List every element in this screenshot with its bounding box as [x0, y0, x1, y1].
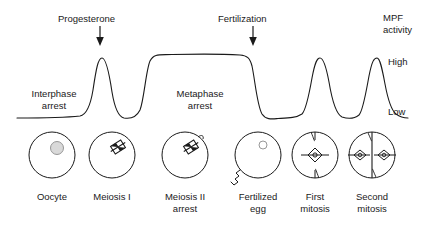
cell-label-fertilized-egg-line1: Fertilized	[239, 191, 278, 202]
cell-label-second-mitosis-line1: Second	[356, 191, 388, 202]
mpf-activity-figure: Progesterone Fertilization MPF activity …	[0, 0, 436, 232]
progesterone-label: Progesterone	[58, 13, 115, 25]
cell-label-meiosis-two-line1: Meiosis II	[165, 191, 205, 202]
metaphase-arrest-label: Metaphase arrest	[160, 88, 240, 111]
fertilization-arrow-down-icon	[249, 26, 257, 46]
cell-label-first-mitosis-line2: mitosis	[300, 203, 330, 214]
axis-tick-low: Low	[388, 106, 405, 118]
cell-label-first-mitosis-line1: First	[306, 191, 324, 202]
interphase-arrest-line1: Interphase	[32, 88, 77, 99]
cell-label-second-mitosis: Second mitosis	[337, 191, 407, 214]
first-mitosis-cell-icon	[292, 132, 338, 178]
cell-label-oocyte-line1: Oocyte	[37, 191, 67, 202]
progesterone-arrow-down-icon	[96, 26, 104, 46]
interphase-arrest-label: Interphase arrest	[14, 88, 94, 111]
meiosis-one-cell-icon	[89, 132, 135, 178]
cell-label-meiosis-one-line1: Meiosis I	[93, 191, 130, 202]
fertilization-label: Fertilization	[218, 13, 267, 25]
cell-label-meiosis-two-line2: arrest	[173, 203, 197, 214]
cell-label-meiosis-one: Meiosis I	[77, 191, 147, 203]
mpf-axis-label-line2: activity	[383, 24, 412, 36]
interphase-arrest-line2: arrest	[42, 100, 66, 111]
axis-tick-high: High	[388, 56, 408, 68]
cell-label-second-mitosis-line2: mitosis	[357, 203, 387, 214]
second-mitosis-cell-icon	[348, 132, 396, 178]
metaphase-arrest-line2: arrest	[188, 100, 212, 111]
metaphase-arrest-line1: Metaphase	[176, 88, 223, 99]
cell-label-fertilized-egg-line2: egg	[250, 203, 266, 214]
meiosis-two-arrest-cell-icon	[162, 132, 208, 178]
cell-label-meiosis-two-arrest: Meiosis II arrest	[150, 191, 220, 214]
sperm-tail-icon	[231, 170, 240, 185]
mpf-axis-label-line1: MPF	[383, 12, 403, 24]
oocyte-cell-icon	[29, 132, 75, 178]
fertilized-egg-cell-icon	[231, 132, 281, 185]
